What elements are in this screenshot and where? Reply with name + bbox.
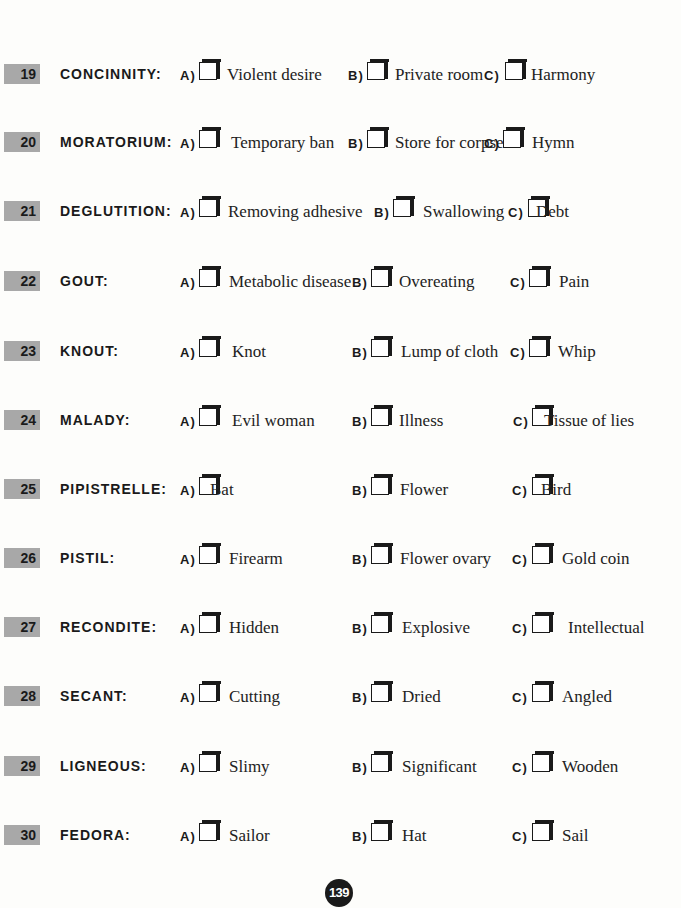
option-letter: A): [180, 343, 196, 363]
option-letter: A): [180, 827, 196, 847]
checkbox-icon[interactable]: [532, 615, 550, 633]
option-text: Flower ovary: [400, 548, 491, 570]
option-text: Pain: [559, 271, 589, 293]
checkbox-icon[interactable]: [371, 339, 389, 357]
checkbox-icon[interactable]: [199, 269, 217, 287]
checkbox-icon[interactable]: [529, 339, 547, 357]
question-number-badge: 30: [4, 825, 40, 845]
option-text: Violent desire: [227, 64, 322, 86]
checkbox-icon[interactable]: [371, 408, 389, 426]
question-word: PIPISTRELLE:: [60, 479, 167, 499]
option-letter: A): [180, 134, 196, 154]
question-row: 29LIGNEOUS:A)SlimyB)SignificantC)Wooden: [0, 752, 681, 782]
option-text: Bird: [541, 479, 571, 501]
option-letter: B): [352, 273, 368, 293]
checkbox-icon[interactable]: [199, 408, 217, 426]
checkbox-icon[interactable]: [371, 615, 389, 633]
option-letter: C): [510, 343, 526, 363]
option-letter: B): [352, 688, 368, 708]
question-number-badge: 29: [4, 756, 40, 776]
option-text: Hymn: [532, 132, 575, 154]
checkbox-icon[interactable]: [371, 684, 389, 702]
question-row: 28SECANT:A)CuttingB)DriedC)Angled: [0, 682, 681, 712]
option-letter: B): [352, 758, 368, 778]
option-text: Intellectual: [568, 617, 644, 639]
checkbox-icon[interactable]: [199, 130, 217, 148]
option-text: Gold coin: [562, 548, 630, 570]
checkbox-icon[interactable]: [199, 199, 217, 217]
checkbox-icon[interactable]: [371, 823, 389, 841]
checkbox-icon[interactable]: [371, 269, 389, 287]
option-text: Sailor: [229, 825, 270, 847]
option-letter: A): [180, 688, 196, 708]
option-text: Removing adhesive: [228, 201, 363, 223]
checkbox-icon[interactable]: [199, 684, 217, 702]
question-word: PISTIL:: [60, 548, 115, 568]
checkbox-icon[interactable]: [505, 62, 523, 80]
option-text: Angled: [562, 686, 612, 708]
question-number-badge: 25: [4, 479, 40, 499]
question-row: 20MORATORIUM:A)Temporary banB)Store for …: [0, 128, 681, 158]
question-row: 21DEGLUTITION:A)Removing adhesiveB)Swall…: [0, 197, 681, 227]
checkbox-icon[interactable]: [532, 823, 550, 841]
option-text: Lump of cloth: [401, 341, 498, 363]
checkbox-icon[interactable]: [532, 684, 550, 702]
checkbox-icon[interactable]: [199, 615, 217, 633]
question-number-badge: 20: [4, 132, 40, 152]
checkbox-icon[interactable]: [199, 62, 217, 80]
option-letter: B): [348, 134, 364, 154]
checkbox-icon[interactable]: [367, 130, 385, 148]
question-word: CONCINNITY:: [60, 64, 162, 84]
question-word: LIGNEOUS:: [60, 756, 147, 776]
question-row: 19CONCINNITY:A)Violent desireB)Private r…: [0, 60, 681, 90]
option-letter: C): [484, 66, 500, 86]
question-word: KNOUT:: [60, 341, 119, 361]
option-letter: C): [484, 134, 500, 154]
option-letter: A): [180, 550, 196, 570]
checkbox-icon[interactable]: [532, 546, 550, 564]
option-letter: A): [180, 66, 196, 86]
option-text: Tissue of lies: [544, 410, 634, 432]
option-text: Bat: [210, 479, 234, 501]
checkbox-icon[interactable]: [367, 62, 385, 80]
option-letter: B): [352, 550, 368, 570]
option-text: Overeating: [399, 271, 475, 293]
option-text: Firearm: [229, 548, 283, 570]
question-word: SECANT:: [60, 686, 128, 706]
checkbox-icon[interactable]: [371, 477, 389, 495]
option-letter: C): [508, 203, 524, 223]
option-text: Hat: [402, 825, 427, 847]
option-text: Significant: [402, 756, 477, 778]
option-text: Debt: [536, 201, 569, 223]
checkbox-icon[interactable]: [532, 754, 550, 772]
question-number-badge: 21: [4, 201, 40, 221]
question-word: MALADY:: [60, 410, 131, 430]
option-letter: C): [510, 273, 526, 293]
option-text: Knot: [232, 341, 266, 363]
option-text: Sail: [562, 825, 588, 847]
option-letter: A): [180, 412, 196, 432]
checkbox-icon[interactable]: [393, 199, 411, 217]
option-text: Flower: [400, 479, 448, 501]
checkbox-icon[interactable]: [371, 546, 389, 564]
checkbox-icon[interactable]: [199, 754, 217, 772]
question-row: 27RECONDITE:A)HiddenB)ExplosiveC)Intelle…: [0, 613, 681, 643]
option-text: Private room: [395, 64, 483, 86]
checkbox-icon[interactable]: [199, 823, 217, 841]
checkbox-icon[interactable]: [371, 754, 389, 772]
question-word: MORATORIUM:: [60, 132, 172, 152]
option-text: Slimy: [229, 756, 270, 778]
checkbox-icon[interactable]: [529, 269, 547, 287]
option-letter: A): [180, 481, 196, 501]
question-word: DEGLUTITION:: [60, 201, 172, 221]
checkbox-icon[interactable]: [199, 546, 217, 564]
question-number-badge: 19: [4, 64, 40, 84]
question-number-badge: 22: [4, 271, 40, 291]
checkbox-icon[interactable]: [199, 339, 217, 357]
option-text: Evil woman: [232, 410, 315, 432]
option-text: Temporary ban: [231, 132, 334, 154]
checkbox-icon[interactable]: [503, 130, 521, 148]
option-text: Whip: [558, 341, 596, 363]
option-letter: C): [512, 758, 528, 778]
option-text: Harmony: [531, 64, 595, 86]
